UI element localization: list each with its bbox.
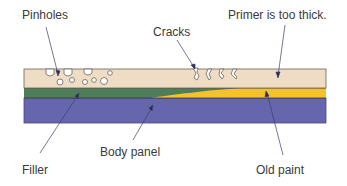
old-paint-label: Old paint [256, 163, 304, 177]
primer-too-thick-label: Primer is too thick. [228, 8, 327, 22]
cracks-label: Cracks [153, 25, 190, 39]
filler-label: Filler [22, 163, 48, 177]
pinholes-label: Pinholes [22, 8, 68, 22]
body-panel-label: Body panel [100, 145, 160, 159]
body-panel-layer [24, 98, 326, 123]
